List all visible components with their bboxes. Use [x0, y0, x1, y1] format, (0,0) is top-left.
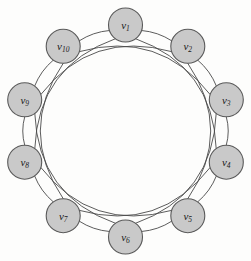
graph-node-v3[interactable]: v3: [209, 83, 243, 117]
graph-edge-v5-v6: [142, 221, 172, 231]
graph-node-v10[interactable]: v10: [46, 29, 80, 63]
graph-edge-v1-v2: [142, 31, 172, 41]
graph-node-v7[interactable]: v7: [46, 199, 80, 233]
graph-node-v4[interactable]: v4: [209, 145, 243, 179]
graph-node-v6[interactable]: v6: [109, 220, 143, 254]
graph-edge-v7-v8: [35, 176, 54, 202]
graph-edge-v8-v9: [23, 117, 25, 145]
graph-edge-v7-v10: [40, 63, 63, 198]
graph-edge-v2-v3: [198, 60, 217, 86]
graph-node-v5[interactable]: v5: [171, 199, 205, 233]
graph-edge-v10-v1: [79, 31, 109, 41]
node-layer: v1v2v3v4v5v6v7v8v9v10: [8, 8, 244, 254]
graph-edge-v9-v10: [35, 60, 54, 86]
graph-node-v2[interactable]: v2: [171, 29, 205, 63]
graph-node-v8[interactable]: v8: [8, 145, 42, 179]
graph-edge-v2-v5: [188, 63, 211, 198]
graph-edge-v3-v4: [226, 117, 228, 145]
graph-node-v9[interactable]: v9: [8, 83, 42, 117]
graph-figure: v1v2v3v4v5v6v7v8v9v10: [0, 0, 251, 261]
graph-edge-v4-v5: [198, 176, 217, 202]
graph-edge-v6-v7: [79, 221, 109, 231]
graph-canvas: v1v2v3v4v5v6v7v8v9v10: [0, 0, 251, 261]
graph-node-v1[interactable]: v1: [109, 8, 143, 42]
